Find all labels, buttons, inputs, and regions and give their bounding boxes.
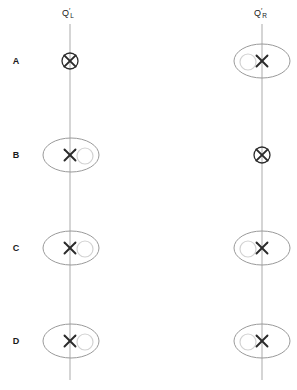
marker-c-left (43, 231, 99, 265)
axis-label-left-subscript: L (70, 12, 74, 19)
axis-label-right-base: Q (254, 8, 261, 18)
axis-label-left: Q′L (62, 7, 74, 19)
row-label-d: D (13, 336, 20, 346)
axis-label-right: Q′R (254, 7, 267, 19)
axis-label-left-base: Q (62, 8, 69, 18)
satellite-circle-icon (77, 334, 93, 350)
axis-label-right-subscript: R (262, 12, 267, 19)
satellite-circle-icon (240, 241, 256, 257)
satellite-circle-icon (240, 334, 256, 350)
satellite-circle-icon (77, 241, 93, 257)
diagram-canvas: Q′L Q′R A B C D (0, 0, 297, 390)
axis-labels-group: Q′L Q′R (62, 7, 267, 19)
row-label-a: A (13, 56, 20, 66)
marker-d-left (43, 324, 99, 358)
satellite-circle-icon (77, 148, 93, 164)
row-label-c: C (13, 243, 20, 253)
marker-b-left (43, 138, 99, 172)
row-label-b: B (13, 150, 20, 160)
axis-lines-group (70, 24, 262, 380)
diagram-svg: Q′L Q′R A B C D (0, 0, 297, 390)
satellite-circle-icon (240, 54, 256, 70)
row-labels-group: A B C D (13, 56, 20, 346)
